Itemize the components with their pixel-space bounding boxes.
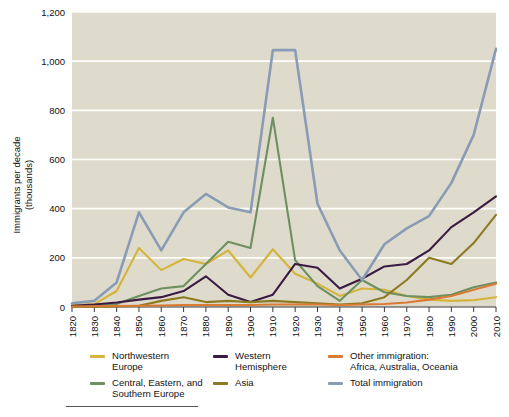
y-tick-label: 600 (49, 154, 65, 165)
x-tick-label: 1930 (312, 316, 323, 337)
x-tick-label: 1900 (245, 316, 256, 337)
legend-item-northwestern-europe[interactable]: Northwestern Europe (90, 350, 215, 372)
legend-label-total-immigration: Total immigration (350, 377, 423, 388)
x-tick-label: 1990 (446, 316, 457, 337)
x-tick-label: 1850 (133, 316, 144, 337)
x-tick-label: 1860 (156, 316, 167, 337)
x-tick-label: 1910 (267, 316, 278, 337)
x-tick-label: 1940 (334, 316, 345, 337)
legend-item-asia[interactable]: Asia (213, 377, 323, 388)
y-tick-label: 1,000 (41, 56, 65, 67)
x-tick-label: 2000 (468, 316, 479, 337)
y-tick-label: 0 (60, 302, 65, 313)
legend-swatch-asia (213, 382, 228, 385)
line-chart: 02004006008001,0001,200 Immigrants per d… (0, 0, 509, 345)
legend-swatch-western-hemisphere (213, 355, 228, 358)
x-axis-ticks: 1820183018401850186018701880189019001910… (67, 307, 502, 337)
immigration-figure: 02004006008001,0001,200 Immigrants per d… (0, 0, 509, 417)
legend-label-central-eastern-southern-europe: Central, Eastern, and Southern Europe (112, 377, 203, 399)
legend-swatch-other-immigration (328, 355, 343, 358)
x-tick-label: 1980 (424, 316, 435, 337)
legend-swatch-northwestern-europe (90, 355, 105, 358)
x-tick-label: 1820 (67, 316, 78, 337)
x-tick-label: 1960 (379, 316, 390, 337)
y-tick-label: 800 (49, 105, 65, 116)
legend-label-northwestern-europe: Northwestern Europe (112, 350, 169, 372)
x-tick-label: 1870 (178, 316, 189, 337)
x-tick-label: 2010 (491, 316, 502, 337)
legend-column-2: Western HemisphereAsia (213, 350, 323, 393)
x-tick-label: 1950 (357, 316, 368, 337)
legend-label-asia: Asia (235, 377, 254, 388)
y-axis-title-line1: Immigrants per decade (11, 136, 22, 233)
legend-swatch-central-eastern-southern-europe (90, 382, 105, 385)
legend-column-3: Other immigration: Africa, Australia, Oc… (328, 350, 508, 393)
x-tick-label: 1880 (200, 316, 211, 337)
legend-label-other-immigration: Other immigration: Africa, Australia, Oc… (350, 350, 458, 372)
legend-item-central-eastern-southern-europe[interactable]: Central, Eastern, and Southern Europe (90, 377, 215, 399)
y-axis-title: Immigrants per decade (thousands) (11, 136, 34, 233)
y-tick-label: 200 (49, 252, 65, 263)
y-tick-label: 1,200 (41, 7, 65, 18)
x-tick-label: 1890 (223, 316, 234, 337)
x-tick-label: 1970 (401, 316, 412, 337)
chart-area: 02004006008001,0001,200 Immigrants per d… (0, 0, 509, 345)
legend-label-western-hemisphere: Western Hemisphere (235, 350, 287, 372)
legend-column-1: Northwestern EuropeCentral, Eastern, and… (90, 350, 215, 404)
x-tick-label: 1920 (290, 316, 301, 337)
footer-rule (66, 406, 198, 407)
y-tick-label: 400 (49, 203, 65, 214)
chart-legend: Northwestern EuropeCentral, Eastern, and… (0, 350, 509, 402)
y-axis-ticks: 02004006008001,0001,200 (41, 7, 65, 313)
legend-item-other-immigration[interactable]: Other immigration: Africa, Australia, Oc… (328, 350, 508, 372)
legend-swatch-total-immigration (328, 382, 343, 385)
legend-item-western-hemisphere[interactable]: Western Hemisphere (213, 350, 323, 372)
legend-item-total-immigration[interactable]: Total immigration (328, 377, 508, 388)
y-axis-title-line2: (thousands) (23, 160, 34, 210)
x-tick-label: 1840 (111, 316, 122, 337)
x-tick-label: 1830 (89, 316, 100, 337)
